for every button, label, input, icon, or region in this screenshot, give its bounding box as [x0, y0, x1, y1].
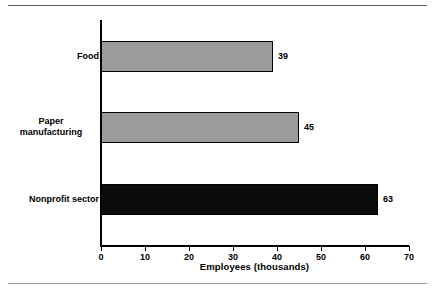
value-axis-line [100, 245, 409, 247]
x-tick-mark-40 [277, 246, 278, 251]
x-tick-mark-0 [101, 246, 102, 251]
plot-area: 0 10 20 30 40 50 60 70 Employees (thousa… [0, 0, 434, 292]
bar-value-nonprofit-sector: 63 [383, 194, 393, 205]
bar-value-food: 39 [278, 51, 288, 62]
x-axis-title: Employees (thousands) [100, 261, 409, 272]
chart-figure: 0 10 20 30 40 50 60 70 Employees (thousa… [0, 0, 434, 292]
bar-value-paper-manufacturing: 45 [304, 122, 314, 133]
category-label-paper-line1: Paper [3, 116, 99, 127]
bar-paper-manufacturing[interactable] [101, 112, 299, 143]
x-tick-mark-20 [189, 246, 190, 251]
bar-food[interactable] [101, 41, 273, 72]
category-label-food: Food [0, 51, 99, 62]
x-tick-mark-30 [233, 246, 234, 251]
x-tick-mark-60 [365, 246, 366, 251]
bar-nonprofit-sector[interactable] [101, 184, 378, 215]
category-label-paper-line2: manufacturing [3, 127, 99, 138]
x-tick-mark-10 [145, 246, 146, 251]
category-label-paper-manufacturing: Paper manufacturing [3, 116, 99, 138]
x-tick-mark-50 [321, 246, 322, 251]
x-tick-mark-70 [409, 246, 410, 251]
category-label-nonprofit-sector: Nonprofit sector [0, 194, 99, 205]
